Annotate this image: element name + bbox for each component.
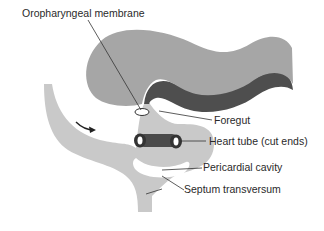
leader-foregut — [159, 111, 212, 120]
label-heart-tube: Heart tube (cut ends) — [209, 136, 308, 147]
label-oropharyngeal-membrane: Oropharyngeal membrane — [22, 8, 145, 19]
diagram-canvas: Oropharyngeal membrane Foregut Heart tub… — [0, 0, 324, 231]
label-foregut: Foregut — [214, 115, 250, 126]
embryo-diagram — [0, 0, 324, 231]
label-pericardial-cavity: Pericardial cavity — [203, 162, 282, 173]
heart-tube-shape — [134, 134, 182, 149]
label-septum-transversum: Septum transversum — [184, 184, 281, 195]
oropharyngeal-membrane-shape — [135, 109, 149, 116]
